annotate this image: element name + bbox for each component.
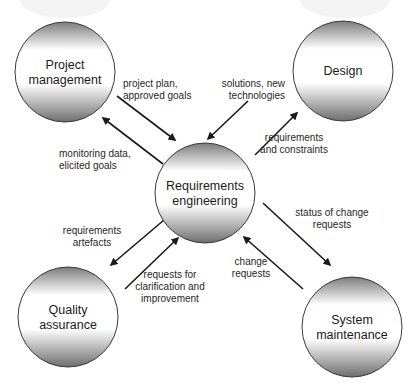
svg-text:requests: requests [313,219,351,230]
node-label-line: assurance [39,318,97,332]
node-label-line: engineering [172,194,237,208]
svg-text:elicited goals: elicited goals [59,160,117,171]
edge-label-project-plan: project plan, approved goals [123,78,191,101]
svg-text:requirements: requirements [265,132,323,143]
node-label-line: Quality [49,303,89,317]
node-label-line: Project [46,58,85,72]
edge-label-solutions: solutions, new technologies [222,78,286,101]
edge-project-plan [117,96,175,140]
node-label-line: management [29,73,102,87]
edge-label-requirements-constraints: requirements and constraints [260,132,328,155]
edge-label-change-requests: change requests [232,256,270,279]
edge-label-requests-clarification: requests for clarification and improveme… [135,269,204,304]
svg-text:project plan,: project plan, [123,78,177,89]
svg-text:requests: requests [232,268,270,279]
edge-label-status-change-requests: status of change requests [295,207,369,230]
svg-text:approved goals: approved goals [123,90,191,101]
node-project-management: Project management [15,22,115,122]
svg-text:technologies: technologies [229,90,285,101]
node-design: Design [293,21,393,121]
node-label-line: Requirements [166,179,244,193]
svg-text:artefacts: artefacts [73,237,111,248]
background-ghost [20,0,390,18]
svg-text:status of change: status of change [295,207,369,218]
svg-text:monitoring data,: monitoring data, [59,148,131,159]
svg-text:and constraints: and constraints [260,144,328,155]
node-label-line: Design [324,64,363,78]
edge-label-monitoring-data: monitoring data, elicited goals [59,148,131,171]
requirements-engineering-diagram: Project management Design Requirements e… [0,0,411,385]
node-label-line: maintenance [316,328,388,342]
edge-label-requirements-artefacts: requirements artefacts [63,225,121,248]
node-label-line: System [331,313,373,327]
svg-text:requests for: requests for [144,269,197,280]
svg-text:solutions, new: solutions, new [222,78,286,89]
svg-text:requirements: requirements [63,225,121,236]
edge-solutions [208,101,248,139]
node-quality-assurance: Quality assurance [18,267,118,367]
node-system-maintenance: System maintenance [302,277,402,377]
svg-text:change: change [235,256,268,267]
svg-text:clarification and: clarification and [135,281,204,292]
svg-text:improvement: improvement [141,293,199,304]
node-requirements-engineering: Requirements engineering [155,143,255,243]
